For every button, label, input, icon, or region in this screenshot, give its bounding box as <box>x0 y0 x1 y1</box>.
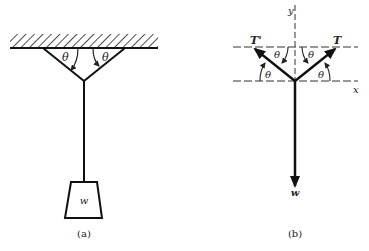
figure-a: θ θ w (a) <box>10 34 158 239</box>
angle-label-lower-left: θ <box>265 69 271 80</box>
y-axis-label: y <box>287 5 294 16</box>
x-axis-label: x <box>353 84 359 95</box>
angle-label-upper-left: θ <box>274 49 280 60</box>
figure-b: y x T' T w θ θ θ θ (b) <box>233 5 359 239</box>
tension-vector-right <box>295 49 335 81</box>
tension-label-right: T <box>333 34 342 47</box>
tension-label-left: T' <box>250 34 262 47</box>
angle-arc-upper-left <box>282 47 288 63</box>
angle-arc-lower-right <box>325 63 330 81</box>
angle-arc-right <box>93 48 99 66</box>
weight-label-a: w <box>80 195 89 206</box>
angle-label-upper-right: θ <box>308 49 314 60</box>
angle-label-right: θ <box>102 51 109 64</box>
angle-arc-left <box>71 48 78 70</box>
diagram: θ θ w (a) y x T' T w θ θ θ θ (b) <box>0 0 369 251</box>
caption-b: (b) <box>288 228 302 239</box>
caption-a: (a) <box>77 228 91 239</box>
angle-label-left: θ <box>62 51 69 64</box>
ceiling-hatch <box>10 34 158 47</box>
angle-label-lower-right: θ <box>318 69 324 80</box>
weight-label-b: w <box>291 187 300 198</box>
